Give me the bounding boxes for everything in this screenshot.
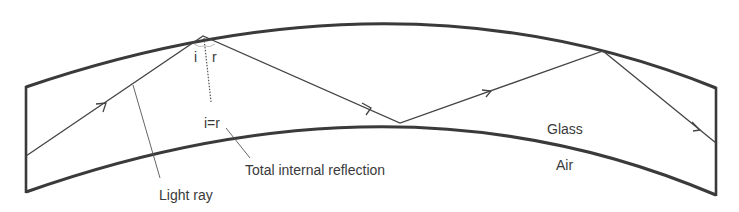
normal-line — [204, 38, 211, 102]
arrow-icon — [692, 122, 700, 131]
light-ray-label: Light ray — [159, 187, 213, 203]
tir-diagram: i r i=r Total internal reflection Light … — [0, 0, 739, 212]
angle-arc-i — [194, 44, 205, 47]
angle-i-label: i — [194, 49, 197, 65]
tir-label: Total internal reflection — [245, 162, 385, 178]
arrow-icon — [362, 103, 371, 115]
tir-leader-line — [226, 128, 250, 158]
glass-label: Glass — [547, 121, 583, 137]
glass-inner-surface — [26, 127, 716, 195]
glass-outer-surface — [26, 24, 716, 88]
air-label: Air — [556, 157, 573, 173]
angle-arc-r — [205, 44, 215, 47]
angle-r-label: r — [212, 49, 217, 65]
light-ray-leader-line — [133, 85, 160, 178]
equality-label: i=r — [204, 115, 220, 131]
